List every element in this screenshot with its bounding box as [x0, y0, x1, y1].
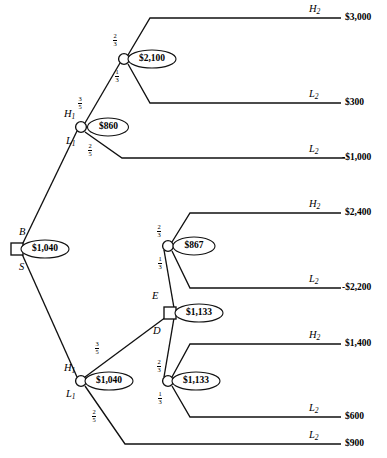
prob-867-l2: 13	[158, 256, 162, 272]
tree-graphics	[0, 0, 387, 458]
branch-label-e: E	[152, 291, 158, 302]
value-label-decision-1133: $1,133	[175, 308, 223, 318]
prob-upper-chance-h2: 23	[113, 33, 117, 49]
outcome-label-2: L2	[309, 89, 319, 100]
edge-lower-l1	[85, 386, 341, 444]
branch-label-s: S	[19, 262, 24, 273]
prob-1133-l2: 13	[158, 391, 162, 407]
payoff-6: $1,400	[345, 339, 371, 349]
branch-label-lower-l1: L1	[66, 389, 76, 400]
prob-upper-chance-l2: 13	[115, 69, 119, 85]
edge-upper-l1	[85, 132, 345, 158]
payoff-7: $600	[345, 412, 364, 422]
payoff-3: -$1,000	[342, 153, 371, 163]
prob-867-h2: 23	[157, 224, 161, 240]
outcome-label-3: L2	[309, 144, 319, 155]
value-label-2100: $2,100	[128, 54, 176, 64]
outcome-label-5: L2	[309, 274, 319, 285]
payoff-4: $2,400	[345, 208, 371, 218]
edge-decision-e	[164, 250, 174, 308]
branch-label-lower-h1: H1	[64, 363, 75, 374]
prob-lower-l1: 25	[92, 409, 96, 425]
outcome-label-7: L2	[309, 403, 319, 414]
edge-root-to-upper-h1	[22, 131, 77, 245]
outcome-label-8: L2	[309, 430, 319, 441]
value-label-root: $1,040	[21, 244, 69, 254]
value-label-lower-1040: $1,040	[85, 376, 133, 386]
value-label-860: $860	[88, 122, 129, 132]
edge-upper-h2	[128, 18, 341, 55]
branch-label-upper-l1: L1	[66, 136, 76, 147]
branch-label-b: B	[19, 227, 25, 238]
payoff-8: $900	[345, 439, 364, 449]
payoff-2: $300	[345, 98, 364, 108]
prob-1133-h2: 23	[157, 359, 161, 375]
prob-upper-l1: 25	[88, 143, 92, 159]
edge-root-to-lower-h1	[22, 254, 77, 377]
decision-tree-diagram: $2,100 $860 $1,040 $867 $1,133 $1,040 $1…	[0, 0, 387, 458]
value-label-chance-1133: $1,133	[172, 376, 220, 386]
value-label-867: $867	[173, 241, 215, 251]
outcome-label-4: H2	[309, 199, 320, 210]
payoff-1: $3,000	[345, 13, 371, 23]
edge-decision-d	[164, 318, 174, 377]
branch-label-d: D	[153, 326, 161, 337]
prob-upper-h1: 35	[78, 96, 82, 112]
branch-label-upper-h1: H1	[64, 109, 75, 120]
prob-lower-h1: 35	[95, 341, 99, 357]
outcome-label-6: H2	[309, 330, 320, 341]
payoff-5: -$2,200	[342, 283, 371, 293]
node-chance-867-circle	[163, 241, 174, 252]
outcome-label-1: H2	[309, 4, 320, 15]
node-upper-h1-circle	[76, 122, 87, 133]
